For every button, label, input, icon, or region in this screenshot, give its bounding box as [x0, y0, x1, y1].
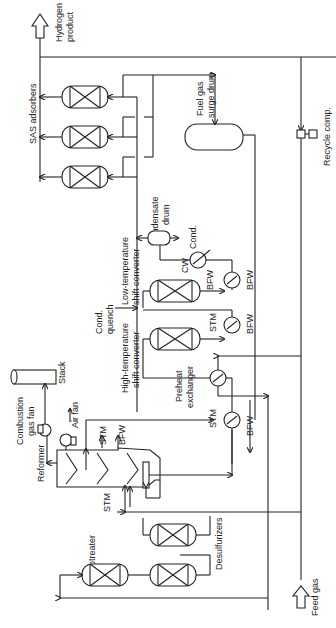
label-combustion-gas-fan-2: gas fan — [26, 406, 36, 436]
lt-bfw-exchanger — [224, 272, 240, 290]
label-preheat-exchanger: Preheat — [174, 370, 184, 402]
label-stack: Stack — [57, 361, 67, 384]
outlet-arrow-icon — [32, 14, 48, 38]
label-stm-pre: STM — [208, 409, 218, 428]
label-bfw-lt: BFW — [205, 269, 215, 290]
label-desulfurizers: Desulfurizers — [214, 517, 224, 570]
reformer — [47, 420, 213, 488]
label-cond: Cond. — [188, 225, 198, 249]
label-condensate-drum-2: drum — [161, 204, 171, 225]
desulfurizer-2 — [150, 555, 210, 586]
recycle-compressor — [297, 57, 317, 580]
combustion-gas-fan — [38, 384, 51, 436]
label-stm-feed: STM — [102, 493, 112, 512]
label-lt-shift-2: shift converter — [131, 248, 141, 305]
label-cw: CW — [180, 258, 190, 273]
sas-adsorber-1 — [62, 86, 108, 108]
feed-gas-inlet — [293, 586, 309, 608]
label-fuel-gas: Fuel gas — [195, 81, 205, 116]
stack — [11, 370, 56, 384]
sas-adsorber-3 — [62, 166, 108, 188]
label-recycle-comp: Recycle comp. — [322, 107, 332, 166]
compressor-icon — [297, 130, 305, 138]
sas-adsorber-2 — [62, 126, 108, 148]
label-ht-shift: High-temperature — [120, 323, 130, 393]
label-hydrogen-product-2: product — [65, 11, 75, 42]
label-ht-shift-2: shift converter — [131, 331, 141, 388]
condensate-drum — [137, 231, 178, 245]
label-lt-shift: Low-temperature — [120, 237, 130, 305]
process-flow-diagram: Hydrogen product SAS adsorbers — [0, 0, 336, 628]
label-cond-quench: Cond. — [94, 310, 104, 334]
label-preheat-exchanger-2: exchanger — [185, 366, 195, 408]
inlet-arrow-icon — [293, 586, 309, 608]
label-cond-quench-2: quench — [105, 304, 115, 334]
label-bfw-ht: BFW — [245, 313, 255, 334]
label-reformer: Reformer — [36, 444, 46, 482]
desulfurizers — [143, 516, 210, 586]
label-sas-adsorbers: SAS adsorbers — [28, 83, 38, 144]
label-combustion-gas-fan: Combustion — [15, 397, 25, 445]
label-hydrogen-product: Hydrogen — [54, 3, 64, 42]
desulfurizer-1 — [143, 516, 210, 546]
label-stm-reformer: STM — [98, 426, 108, 445]
label-bfw-lt-2: BFW — [245, 269, 255, 290]
label-stm-ht: STM — [208, 313, 218, 332]
label-feed-gas: Feed gas — [310, 578, 320, 616]
label-air-fan: Air fan — [70, 402, 80, 428]
